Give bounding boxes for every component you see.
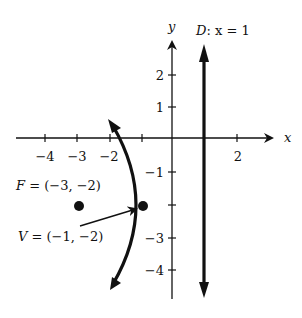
y-tick-label-1: 1 bbox=[156, 100, 164, 115]
y-tick-label-neg3: −3 bbox=[145, 231, 164, 246]
parabola-top-arrow-icon bbox=[108, 119, 121, 133]
y-tick-label-2: 2 bbox=[156, 68, 164, 83]
directrix-bottom-arrow-icon bbox=[199, 282, 209, 298]
vertex-pointer-arrow bbox=[80, 209, 136, 226]
parabola-diagram: −4 −3 −2 2 2 1 −1 −3 −4 x y D: x = 1 F =… bbox=[0, 0, 302, 318]
directrix-label: D: x = 1 bbox=[195, 23, 250, 38]
vertex-label: V = (−1, −2) bbox=[18, 229, 103, 244]
x-tick-label-neg3: −3 bbox=[67, 149, 86, 164]
x-tick-label-neg4: −4 bbox=[35, 149, 54, 164]
x-axis-label: x bbox=[284, 130, 292, 145]
vertex-point bbox=[138, 201, 148, 211]
x-tick-label-neg2: −2 bbox=[99, 149, 118, 164]
y-tick-label-neg4: −4 bbox=[145, 263, 164, 278]
y-axis-label: y bbox=[167, 19, 176, 34]
focus-label: F = (−3, −2) bbox=[15, 178, 101, 193]
x-tick-label-2: 2 bbox=[234, 149, 242, 164]
y-tick-label-neg1: −1 bbox=[145, 165, 164, 180]
directrix-top-arrow-icon bbox=[199, 44, 209, 62]
focus-point bbox=[74, 201, 84, 211]
